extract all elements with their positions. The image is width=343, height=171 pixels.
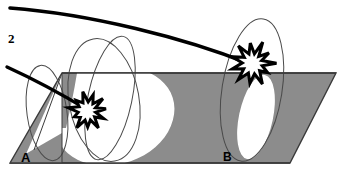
trajectory-upper	[10, 8, 250, 64]
figure-container: 2 A B	[0, 0, 343, 171]
diagram-canvas: 2 A B	[0, 0, 343, 171]
figure-index-label: 2	[8, 31, 15, 46]
point-label-a: A	[21, 150, 31, 165]
point-label-b: B	[223, 150, 232, 164]
